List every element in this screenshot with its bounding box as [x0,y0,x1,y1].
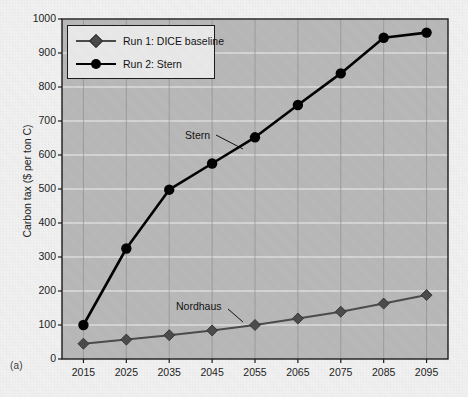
legend-label-run1: Run 1: DICE baseline [123,35,224,47]
data-point-marker [164,184,174,194]
data-point-marker [207,158,217,168]
diamond-marker-icon [89,34,103,48]
annotation-nordhaus: Nordhaus [176,300,222,312]
legend-item-run2: Run 2: Stern [76,57,182,71]
legend: Run 1: DICE baseline Run 2: Stern [67,25,215,79]
legend-swatch-run2 [76,58,116,70]
data-point-marker [378,33,388,43]
data-point-marker [336,68,346,78]
annotation-stern: Stern [185,129,210,141]
legend-swatch-run1 [76,35,116,47]
circle-marker-icon [91,59,101,69]
legend-label-run2: Run 2: Stern [123,58,182,70]
legend-item-run1: Run 1: DICE baseline [76,34,224,48]
data-point-marker [421,27,431,37]
data-point-marker [78,320,88,330]
data-point-marker [250,132,260,142]
data-point-marker [121,243,131,253]
figure-panel: (a) Carbon tax ($ per ton C) 01002003004… [0,0,468,397]
data-point-marker [293,100,303,110]
